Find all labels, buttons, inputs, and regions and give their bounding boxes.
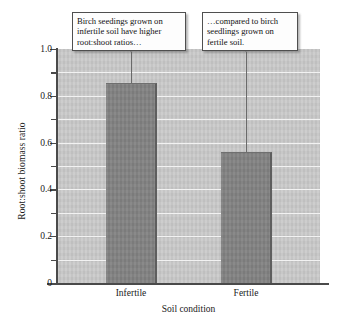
y-tick-minor-0.5 [51, 166, 56, 167]
y-tick-minor-0.1 [51, 260, 56, 261]
leader-line-infertile [131, 52, 132, 83]
bar-texture [106, 84, 155, 283]
plot-area [57, 49, 320, 283]
gridline-0.9 [57, 72, 320, 73]
y-axis-title: Root:shoot biomass ratio [17, 86, 27, 256]
gridline-0.2 [57, 236, 320, 237]
gridline-0.7 [57, 119, 320, 120]
x-tick-label-fertile: Fertile [201, 288, 291, 298]
y-tick-label-1.0: 1.0 [40, 44, 52, 54]
callout-fertile: …compared to birch seedlings grown on fe… [202, 12, 298, 51]
gridline-0.8 [57, 96, 320, 97]
y-tick-label-0.6: 0.6 [40, 138, 52, 148]
leader-line-fertile [246, 52, 247, 152]
gridline-0.1 [57, 260, 320, 261]
bar-chart-figure: 1.0 0.8 0.6 0.4 0.2 0 Root:shoot biomass… [0, 0, 341, 323]
gridline-0.3 [57, 213, 320, 214]
gridline-0.4 [57, 189, 320, 190]
y-tick-label-0.8: 0.8 [40, 91, 52, 101]
bar-infertile[interactable] [106, 83, 157, 283]
callout-infertile: Birch seedings grown on infertile soil h… [72, 12, 186, 51]
y-tick-label-0.4: 0.4 [40, 184, 52, 194]
y-tick-label-0: 0 [47, 278, 52, 288]
gridline-0.6 [57, 143, 320, 144]
y-tick-label-0.2: 0.2 [40, 231, 52, 241]
y-tick-minor-0.3 [51, 213, 56, 214]
x-tick-label-infertile: Infertile [86, 288, 176, 298]
gridline-0.5 [57, 166, 320, 167]
y-tick-minor-0.9 [51, 72, 56, 73]
bar-fertile[interactable] [221, 152, 272, 283]
y-axis-line [56, 48, 58, 284]
x-axis-title: Soil condition [57, 304, 320, 314]
y-tick-minor-0.7 [51, 119, 56, 120]
bar-texture [221, 153, 270, 283]
x-axis-line [47, 283, 329, 285]
